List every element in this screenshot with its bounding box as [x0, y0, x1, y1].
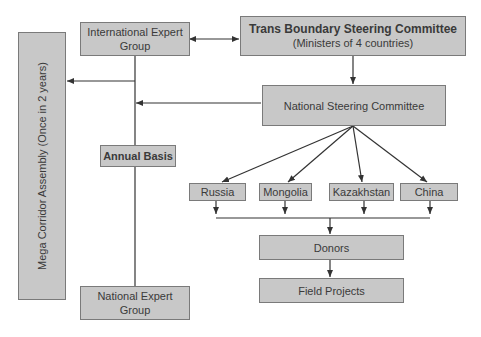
- country-box-kazakhstan: Kazakhstan: [329, 183, 394, 201]
- trans-boundary-subtitle: (Ministers of 4 countries): [293, 36, 413, 50]
- trans-boundary-committee-box: Trans Boundary Steering Committee (Minis…: [240, 16, 466, 56]
- national-expert-group-box: National Expert Group: [80, 286, 190, 320]
- trans-boundary-title: Trans Boundary Steering Committee: [249, 22, 457, 36]
- mongolia-label: Mongolia: [263, 185, 308, 199]
- donors-box: Donors: [259, 235, 404, 260]
- national-expert-line1: National Expert: [97, 289, 172, 303]
- country-box-mongolia: Mongolia: [259, 183, 312, 201]
- russia-label: Russia: [201, 185, 235, 199]
- national-expert-line2: Group: [120, 303, 151, 317]
- international-expert-group-box: International Expert Group: [80, 22, 190, 56]
- national-steering-label: National Steering Committee: [284, 99, 425, 113]
- country-box-china: China: [400, 183, 458, 201]
- mega-corridor-label: Mega Corridor Assembly (Once in 2 years): [35, 62, 49, 270]
- intl-expert-line2: Group: [120, 39, 151, 53]
- china-label: China: [415, 185, 444, 199]
- field-projects-box: Field Projects: [259, 278, 404, 303]
- national-steering-committee-box: National Steering Committee: [262, 85, 446, 126]
- kazakhstan-label: Kazakhstan: [333, 185, 390, 199]
- annual-basis-box: Annual Basis: [100, 145, 176, 167]
- country-box-russia: Russia: [189, 183, 246, 201]
- field-projects-label: Field Projects: [298, 284, 365, 298]
- donors-label: Donors: [314, 241, 349, 255]
- annual-basis-label: Annual Basis: [103, 149, 173, 163]
- mega-corridor-assembly-box: Mega Corridor Assembly (Once in 2 years): [18, 32, 66, 300]
- intl-expert-line1: International Expert: [87, 25, 182, 39]
